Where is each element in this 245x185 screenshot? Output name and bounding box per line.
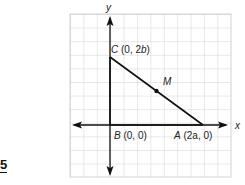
- y-axis-label: y: [105, 2, 112, 13]
- point-c-label: C (0, 2b): [111, 44, 150, 55]
- x-axis-label: x: [234, 120, 241, 131]
- point-m-label: M: [163, 76, 172, 87]
- point-a-label: A (2a, 0): [173, 130, 212, 141]
- coordinate-diagram: y x C (0, 2b) M B (0, 0) A (2a, 0): [0, 0, 245, 185]
- point-b-label: B (0, 0): [114, 130, 147, 141]
- midpoint-m: [154, 89, 158, 93]
- grid: [70, 14, 231, 177]
